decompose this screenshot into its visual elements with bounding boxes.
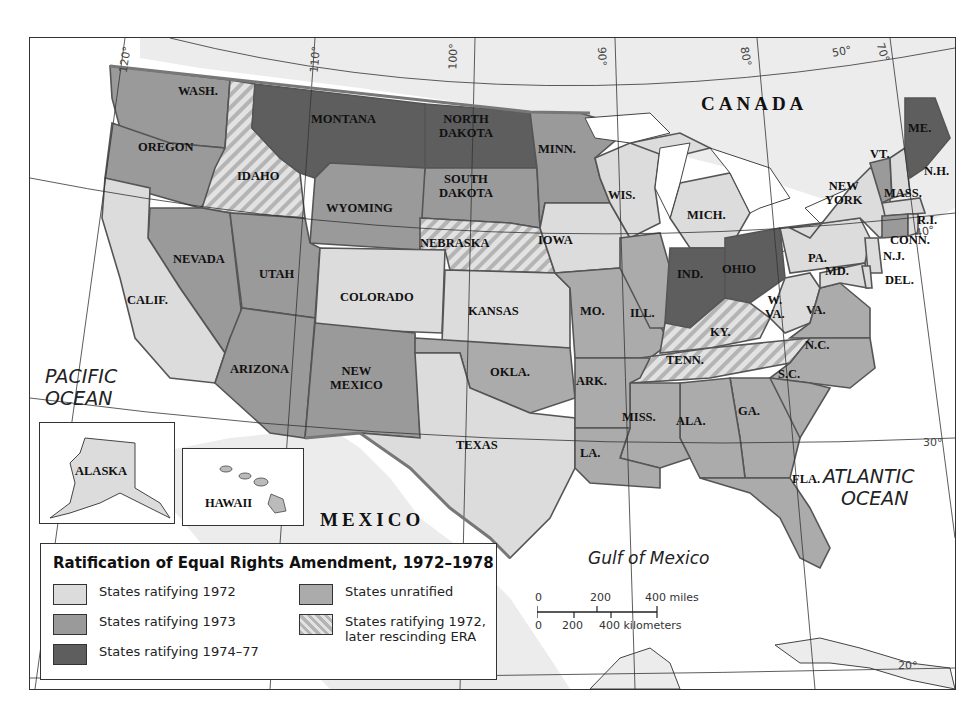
state-label-nh: N.H. [924,164,949,178]
state-label-nc: N.C. [805,338,829,352]
state-label-mo: MO. [580,304,605,318]
legend-item-1972: States ratifying 1972 [53,584,236,605]
state-label-hawaii: HAWAII [205,496,252,510]
state-label-ohio: OHIO [722,262,756,276]
state-label-ark: ARK. [576,374,607,388]
state-label-wash: WASH. [178,84,218,98]
state-label-montana: MONTANA [311,112,376,126]
legend-item-rescinded: States ratifying 1972,later rescinding E… [299,614,486,644]
legend-item-1974-77: States ratifying 1974–77 [53,644,259,665]
state-label-ga: GA. [738,404,760,418]
state-label-ill: ILL. [630,306,655,320]
state-label-alaska: ALASKA [75,464,127,478]
state-label-va: VA. [806,303,826,317]
legend-title: Ratification of Equal Rights Amendment, … [53,554,494,572]
state-label-nevada: NEVADA [173,252,225,266]
label-mexico: MEXICO [320,509,424,531]
scale-bar: 0 200 400 miles 0 200 400 kilometers [535,591,705,641]
state-label-ind: IND. [677,267,703,281]
legend-swatch [53,644,87,665]
state-label-okla: OKLA. [490,365,530,379]
label-pacific-ocean: PACIFICOCEAN [45,365,117,409]
state-label-utah: UTAH [259,267,294,281]
state-label-wva: W.VA. [765,293,785,321]
hawaii-inset: HAWAII [182,448,304,526]
state-label-texas: TEXAS [456,438,498,452]
state-label-mich: MICH. [687,208,726,222]
graticule-label: 30° [923,436,943,449]
legend-swatch [299,614,333,635]
state-label-mass: MASS. [884,186,922,200]
state-label-me: ME. [908,121,931,135]
state-label-ri: R.I. [917,213,937,227]
graticule-label: 20° [898,659,918,672]
map-legend: Ratification of Equal Rights Amendment, … [40,543,497,680]
state-label-wyoming: WYOMING [326,201,393,215]
state-label-iowa: IOWA [538,233,573,247]
state-label-miss: MISS. [622,410,656,424]
state-label-nj: N.J. [883,249,905,263]
label-canada: CANADA [701,93,807,115]
state-label-minn: MINN. [538,142,576,156]
state-label-colorado: COLORADO [340,290,414,304]
graticule-label: 90° [595,47,609,67]
state-label-new-mexico: NEWMEXICO [330,364,383,392]
state-label-vt: VT. [870,147,890,161]
state-label-new-york: NEWYORK [825,179,863,207]
state-label-kansas: KANSAS [468,304,519,318]
state-label-fla: FLA. [792,472,820,486]
state-label-la: LA. [580,446,601,460]
state-label-ky: KY. [710,325,731,339]
state-label-conn: CONN. [890,233,930,247]
era-ratification-map: 120° 110° 100° 90° 80° 70° 50° 40° 30° 2… [29,37,956,690]
label-gulf-of-mexico: Gulf of Mexico [588,547,710,569]
state-label-arizona: ARIZONA [230,362,289,376]
legend-item-unratified: States unratified [299,584,453,605]
state-label-del: DEL. [885,273,914,287]
state-label-ala: ALA. [676,414,706,428]
alaska-inset: ALASKA [39,422,175,524]
legend-swatch [299,584,333,605]
state-label-oregon: OREGON [138,140,194,154]
state-label-pa: PA. [808,251,827,265]
graticule-label: 100° [446,43,460,70]
state-label-wis: WIS. [608,188,635,202]
legend-swatch [53,614,87,635]
legend-swatch [53,584,87,605]
state-label-idaho: IDAHO [237,169,279,183]
state-label-tenn: TENN. [666,353,704,367]
state-label-nebraska: NEBRASKA [420,236,489,250]
legend-item-1973: States ratifying 1973 [53,614,236,635]
state-label-north-dakota: NORTHDAKOTA [439,112,493,140]
state-label-calif: CALIF. [127,293,168,307]
state-label-sc: S.C. [778,367,800,381]
state-label-south-dakota: SOUTHDAKOTA [439,172,493,200]
graticule-label: 110° [308,46,323,74]
label-atlantic-ocean: ATLANTICOCEAN [823,465,915,509]
state-label-md: MD. [825,264,849,278]
